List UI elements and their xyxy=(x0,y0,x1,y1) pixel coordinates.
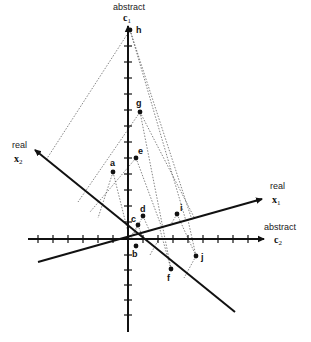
point-c: c xyxy=(131,214,140,227)
point-g: g xyxy=(136,98,142,114)
svg-text:i: i xyxy=(180,203,183,213)
point-h: h xyxy=(128,25,142,35)
point-b: b xyxy=(132,244,138,259)
x1-label-real: real xyxy=(270,181,285,191)
svg-text:j: j xyxy=(200,252,204,262)
svg-text:d: d xyxy=(140,204,146,214)
axis-c2: abstract c2 xyxy=(28,222,297,247)
point-i: i xyxy=(175,203,183,216)
point-e: e xyxy=(134,146,143,160)
point-d: d xyxy=(140,204,146,218)
c1-label-abstract: abstract xyxy=(113,2,146,12)
svg-text:c: c xyxy=(131,214,136,224)
svg-text:f: f xyxy=(167,273,171,283)
c2-label-abstract: abstract xyxy=(264,222,297,232)
x1-symbol: x1 xyxy=(272,194,281,207)
x2-symbol: x2 xyxy=(14,153,23,166)
axis-c1: abstract c1 xyxy=(113,2,146,332)
svg-text:b: b xyxy=(132,249,138,259)
svg-text:e: e xyxy=(138,146,143,156)
data-points: h g e a i d c b xyxy=(110,25,204,283)
point-a: a xyxy=(110,158,116,174)
point-f: f xyxy=(167,267,173,283)
c2-symbol: c2 xyxy=(274,234,282,247)
svg-text:g: g xyxy=(136,98,142,108)
svg-text:a: a xyxy=(110,158,116,168)
axis-x2: real x2 xyxy=(12,140,235,312)
coordinate-diagram: abstract c1 abstract c2 real x1 xyxy=(0,0,311,342)
c1-symbol: c1 xyxy=(123,12,131,25)
svg-text:h: h xyxy=(136,25,142,35)
x2-label-real: real xyxy=(12,140,27,150)
